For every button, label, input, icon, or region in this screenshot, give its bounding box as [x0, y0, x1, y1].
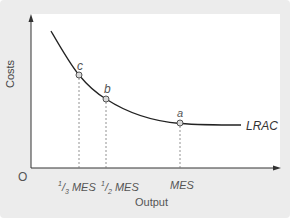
point-b [103, 96, 109, 102]
point-label-a: a [177, 108, 183, 119]
lrac-diagram [0, 0, 290, 218]
frac-numerator: 1 [58, 180, 62, 187]
y-axis-arrow-icon [29, 14, 34, 22]
x-axis-label: Output [135, 197, 168, 208]
frac-denominator: 3 [65, 188, 69, 195]
x-tick-third-mes: 1/3 MES [58, 180, 96, 195]
diagram-panel: c b a LRAC Costs O 1/3 MES 1/2 MES MES O… [0, 0, 290, 218]
point-label-c: c [77, 60, 83, 72]
y-axis-label: Costs [4, 60, 16, 88]
tick-text: MES [72, 181, 96, 193]
x-tick-mes: MES [170, 180, 194, 191]
origin-label: O [18, 171, 27, 183]
frac-numerator: 1 [101, 180, 105, 187]
point-a [177, 120, 183, 126]
curve-label-lrac: LRAC [246, 120, 278, 132]
tick-text: MES [115, 181, 139, 193]
x-axis-arrow-icon [273, 166, 281, 171]
point-label-b: b [104, 83, 111, 95]
x-tick-half-mes: 1/2 MES [101, 180, 139, 195]
frac-denominator: 2 [108, 188, 112, 195]
